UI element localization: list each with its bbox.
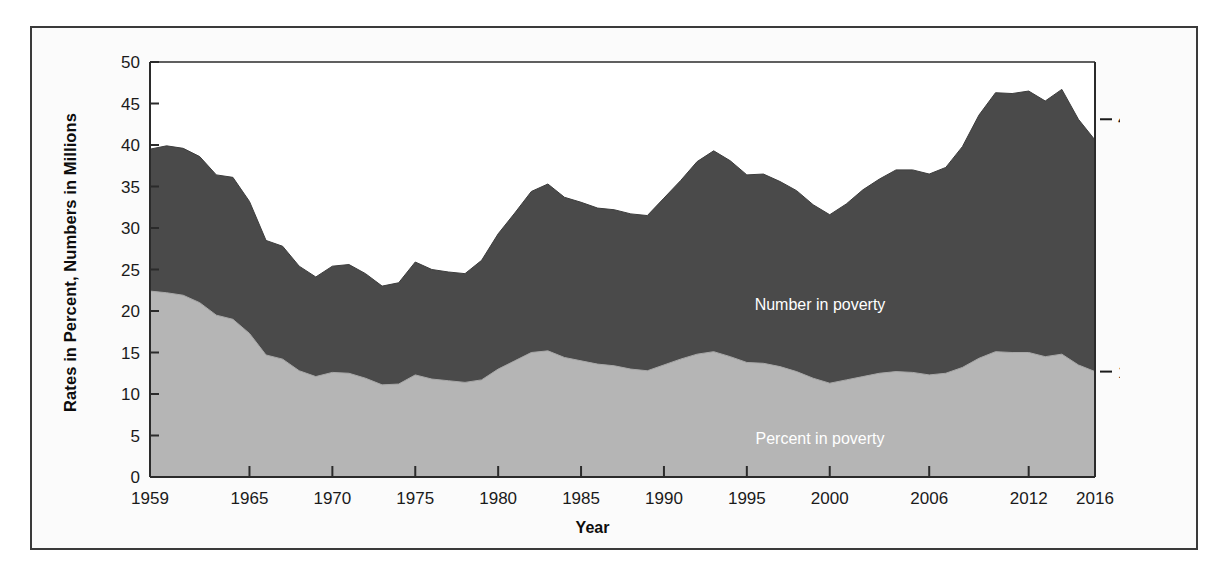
- x-tick-label: 1995: [728, 489, 766, 508]
- y-tick-label: 10: [121, 385, 140, 404]
- y-tick-label: 40: [121, 136, 140, 155]
- plot-area: 05101520253035404550 1959196519701975198…: [120, 52, 1120, 512]
- x-tick-label: 1970: [313, 489, 351, 508]
- y-axis-title: Rates in Percent, Numbers in Millions: [61, 43, 80, 483]
- number-in-poverty-label: Number in poverty: [755, 296, 886, 313]
- x-tick-label: 2016: [1076, 489, 1114, 508]
- y-tick-label: 35: [121, 178, 140, 197]
- y-tick-label: 5: [131, 427, 140, 446]
- number-callout: 43.1 million: [1118, 110, 1120, 129]
- x-tick-label: 2012: [1010, 489, 1048, 508]
- x-tick-label: 1959: [131, 489, 169, 508]
- poverty-area-chart: 05101520253035404550 1959196519701975198…: [120, 52, 1120, 512]
- x-tick-label: 1975: [396, 489, 434, 508]
- end-callouts: 43.1 million12.7%: [1100, 110, 1120, 381]
- x-tick-label: 1965: [231, 489, 269, 508]
- x-tick-label: 1985: [562, 489, 600, 508]
- x-tick-label: 2000: [811, 489, 849, 508]
- x-axis-title: Year: [120, 519, 1065, 537]
- x-tick-label: 1980: [479, 489, 517, 508]
- y-tick-label: 50: [121, 53, 140, 72]
- y-tick-label: 45: [121, 95, 140, 114]
- y-tick-label: 25: [121, 261, 140, 280]
- x-tick-label: 2006: [910, 489, 948, 508]
- y-tick-label: 15: [121, 344, 140, 363]
- figure-frame: Rates in Percent, Numbers in Millions 05…: [30, 26, 1198, 550]
- y-tick-label: 20: [121, 302, 140, 321]
- percent-callout: 12.7%: [1118, 363, 1120, 382]
- x-tick-label: 1990: [645, 489, 683, 508]
- y-tick-label: 0: [131, 468, 140, 487]
- y-tick-label: 30: [121, 219, 140, 238]
- percent-in-poverty-label: Percent in poverty: [756, 430, 885, 447]
